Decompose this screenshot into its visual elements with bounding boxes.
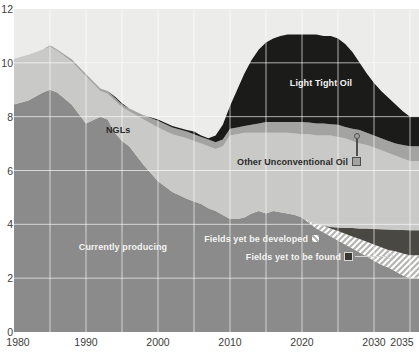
other-unconventional-callout-circle	[354, 133, 360, 139]
x-tick-label: 2000	[141, 336, 175, 348]
ngls-area-label: NGLs	[106, 125, 130, 136]
chart-figure: 024681012 1980199020002010202020302035 N…	[0, 0, 419, 354]
y-tick-label: 4	[0, 218, 13, 230]
y-tick-label: 2	[0, 272, 13, 284]
x-tick-label: 1980	[1, 336, 35, 348]
light-tight-oil-area-label: Light Tight Oil	[285, 78, 357, 89]
y-tick-label: 8	[0, 111, 13, 123]
fields-yet-to-be-found-swatch	[344, 252, 353, 261]
fields-yet-to-be-found-label: Fields yet to be found	[200, 252, 341, 263]
y-tick-label: 6	[0, 165, 13, 177]
fields-yet-to-be-found-callout-circle	[387, 253, 393, 259]
stacked-area-chart	[0, 0, 419, 354]
y-tick-label: 12	[0, 3, 13, 15]
x-tick-label: 2020	[285, 336, 319, 348]
y-tick-label: 10	[0, 57, 13, 69]
other-unconventional-swatch	[352, 157, 361, 166]
x-tick-label: 2010	[213, 336, 247, 348]
other-unconventional-label: Other Unconventional Oil	[200, 157, 348, 168]
x-tick-label: 2035	[385, 336, 419, 348]
other-unconventional-callout-line	[356, 139, 358, 156]
fields-yet-be-developed-swatch	[311, 234, 320, 243]
fields-yet-be-developed-label: Fields yet be developed	[160, 234, 308, 245]
x-tick-label: 1990	[69, 336, 103, 348]
fields-yet-to-be-found-callout-line	[355, 256, 387, 257]
